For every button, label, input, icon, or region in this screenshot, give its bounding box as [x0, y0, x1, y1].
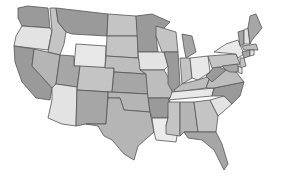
state-nj — [240, 58, 246, 68]
state-ma — [242, 44, 258, 50]
state-ri — [250, 50, 254, 56]
us-choropleth-map — [0, 0, 282, 179]
map-canvas — [0, 0, 282, 179]
state-ar — [148, 98, 170, 118]
state-me — [248, 14, 262, 44]
state-wa — [18, 6, 50, 28]
state-nd — [107, 14, 138, 36]
state-fl — [184, 132, 228, 170]
state-ms — [166, 102, 180, 136]
state-wy — [74, 44, 106, 68]
state-co — [77, 66, 114, 92]
state-ks — [112, 72, 148, 94]
state-ia — [138, 52, 168, 70]
state-mi — [182, 34, 196, 58]
state-or — [14, 26, 52, 50]
state-sd — [106, 36, 138, 58]
state-wi — [156, 26, 178, 52]
state-az — [48, 84, 77, 126]
state-nm — [76, 90, 108, 126]
